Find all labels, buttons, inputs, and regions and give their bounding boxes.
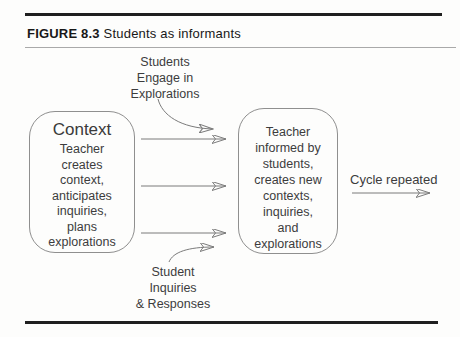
- box-line: explorations: [30, 235, 134, 251]
- box-line: creates: [30, 158, 134, 174]
- box-line: creates new: [239, 172, 337, 188]
- figure-title: Students as informants: [104, 26, 241, 41]
- context-box: Context Teacher creates context, anticip…: [29, 111, 135, 253]
- box-line: inquiries,: [239, 204, 337, 220]
- box-line: plans: [30, 220, 134, 236]
- teacher-informed-box: Teacher informed by students, creates ne…: [238, 108, 338, 254]
- top-rule: [25, 13, 442, 16]
- context-box-title: Context: [30, 120, 134, 140]
- box-line: and: [239, 220, 337, 236]
- cycle-repeated-label: Cycle repeated: [350, 172, 436, 187]
- figure-page: FIGURE 8.3 Students as informants Studen…: [0, 0, 460, 337]
- annotation-line: Students: [110, 54, 220, 70]
- box-line: explorations: [239, 236, 337, 252]
- curved-arrow-students-engage: [158, 99, 213, 129]
- top-annotation: Students Engage in Explorations: [110, 54, 220, 102]
- box-line: Teacher: [239, 124, 337, 140]
- bottom-rule: [25, 321, 438, 324]
- figure-caption: FIGURE 8.3 Students as informants: [27, 26, 241, 41]
- curved-arrow-student-inquiries: [169, 247, 214, 262]
- box-line: Teacher: [30, 142, 134, 158]
- box-line: inquiries,: [30, 204, 134, 220]
- annotation-line: & Responses: [113, 296, 233, 312]
- box-line: informed by: [239, 140, 337, 156]
- box-line: contexts,: [239, 188, 337, 204]
- box-line: students,: [239, 156, 337, 172]
- annotation-line: Student: [113, 264, 233, 280]
- box-line: anticipates: [30, 189, 134, 205]
- figure-number-label: FIGURE 8.3: [27, 26, 100, 41]
- annotation-line: Engage in: [110, 70, 220, 86]
- bottom-annotation: Student Inquiries & Responses: [113, 264, 233, 312]
- caption-divider-rule: [25, 47, 456, 48]
- box-line: context,: [30, 173, 134, 189]
- annotation-line: Inquiries: [113, 280, 233, 296]
- annotation-line: Explorations: [110, 86, 220, 102]
